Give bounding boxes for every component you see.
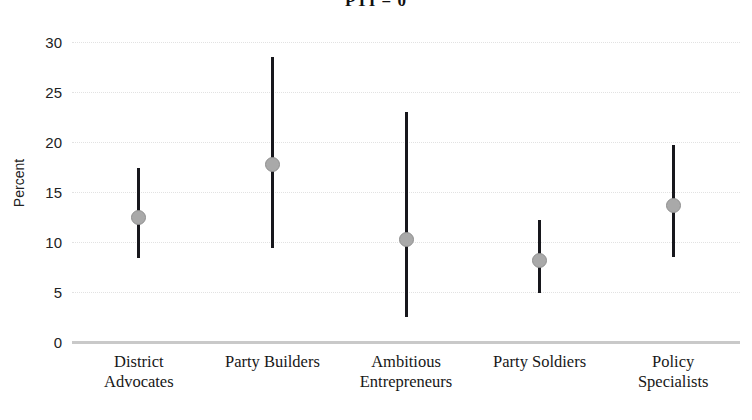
plot-area: [72, 42, 740, 342]
x-axis-tick-label: Party Builders: [197, 352, 347, 372]
data-point-marker[interactable]: [399, 232, 414, 247]
gridline: [72, 42, 740, 43]
data-point-marker[interactable]: [131, 210, 146, 225]
data-point-marker[interactable]: [532, 253, 547, 268]
gridline: [72, 92, 740, 93]
chart-figure: PTI = 0 Percent 051015202530 DistrictAdv…: [0, 0, 752, 420]
y-axis-tick-label: 30: [22, 35, 62, 50]
x-axis-tick-label: DistrictAdvocates: [64, 352, 214, 392]
x-axis-tick-label: AmbitiousEntrepreneurs: [331, 352, 481, 392]
confidence-interval-bar: [405, 112, 408, 317]
y-axis-tick-label: 10: [22, 235, 62, 250]
y-axis-tick-label: 0: [22, 335, 62, 350]
x-axis-tick-label: PolicySpecialists: [598, 352, 748, 392]
x-axis-labels: DistrictAdvocatesParty BuildersAmbitious…: [72, 352, 740, 412]
confidence-interval-bar: [271, 57, 274, 248]
data-point-marker[interactable]: [265, 157, 280, 172]
y-axis-tick-label: 5: [22, 285, 62, 300]
chart-title: PTI = 0: [0, 0, 752, 9]
x-axis-tick-label: Party Soldiers: [465, 352, 615, 372]
y-axis-tick-label: 20: [22, 135, 62, 150]
data-point-marker[interactable]: [666, 198, 681, 213]
y-axis-title: Percent: [11, 159, 27, 207]
axis-baseline: [72, 341, 740, 344]
y-axis-tick-label: 25: [22, 85, 62, 100]
y-axis-tick-label: 15: [22, 185, 62, 200]
